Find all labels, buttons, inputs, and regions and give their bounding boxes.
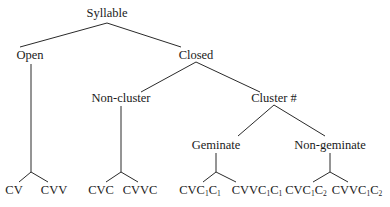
leaf-cvvc1c1-a: CVVC	[232, 183, 267, 197]
node-closed: Closed	[179, 48, 214, 62]
leaf-cvc1c2-b: C	[315, 183, 323, 197]
node-non-geminate: Non-geminate	[294, 138, 366, 152]
edge-noncluster-cvc	[106, 172, 121, 182]
edge-closed-cluster	[196, 62, 260, 92]
edge-noncluster-cvvc	[121, 172, 138, 182]
node-non-cluster: Non-cluster	[91, 91, 150, 105]
edge-nongeminate-cvvc1c2	[330, 172, 348, 182]
edge-cluster-geminate	[238, 105, 274, 136]
leaf-cvvc1c2-sub2: 2	[379, 189, 383, 198]
leaf-cv: CV	[5, 183, 22, 197]
edge-geminate-cvvc1c1	[216, 172, 236, 182]
edge-cluster-nongeminate	[274, 105, 325, 136]
tree-edges	[0, 0, 390, 207]
leaf-cvvc1c1: CVVC1C1	[232, 183, 283, 201]
leaf-cvvc1c1-b: C	[270, 183, 278, 197]
leaf-cvc1c1: CVC1C1	[179, 183, 221, 201]
edge-nongeminate-cvc1c2	[313, 172, 330, 182]
node-syllable: Syllable	[87, 6, 128, 20]
leaf-cvc1c1-sub2: 1	[217, 189, 221, 198]
leaf-cvc1c1-a: CVC	[179, 183, 205, 197]
leaf-cvvc1c1-sub2: 1	[279, 189, 283, 198]
leaf-cvc: CVC	[88, 183, 114, 197]
leaf-cvvc: CVVC	[123, 183, 158, 197]
edge-open-cv	[19, 172, 31, 182]
leaf-cvvc1c2-b: C	[370, 183, 378, 197]
leaf-cvc1c2: CVC1C2	[285, 183, 327, 201]
edge-open-cvv	[31, 172, 48, 182]
leaf-cvc1c1-b: C	[209, 183, 217, 197]
leaf-cvv: CVV	[41, 183, 67, 197]
leaf-cvvc1c2: CVVC1C2	[332, 183, 383, 201]
edge-closed-noncluster	[141, 62, 196, 92]
node-geminate: Geminate	[192, 138, 241, 152]
leaf-cvc1c2-sub2: 2	[323, 189, 327, 198]
leaf-cvc1c2-a: CVC	[285, 183, 311, 197]
node-cluster: Cluster #	[251, 91, 296, 105]
edge-syllable-open	[20, 23, 107, 47]
leaf-cvvc1c2-a: CVVC	[332, 183, 367, 197]
edge-geminate-cvc1c1	[203, 172, 216, 182]
node-open: Open	[16, 48, 43, 62]
edge-syllable-closed	[107, 23, 181, 47]
